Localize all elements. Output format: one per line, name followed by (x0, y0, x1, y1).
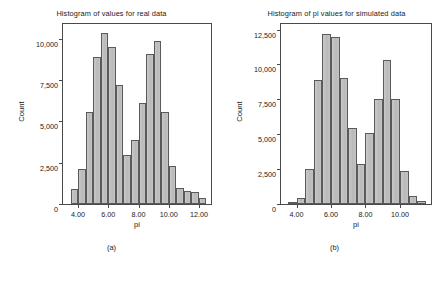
histogram-bar (288, 202, 297, 204)
histogram-bar (383, 60, 392, 204)
histogram-bar (86, 112, 94, 204)
panel-a-y-axis-label: Count (17, 82, 26, 142)
y-tick-label: 0 (54, 205, 63, 214)
y-tick-label: 10,000 (254, 65, 281, 74)
panel-b-title: Histogram of pi values for simulated dat… (227, 9, 446, 18)
x-tick-label: 4.00 (71, 210, 85, 219)
histogram-bar (400, 171, 409, 204)
histogram-bar (108, 47, 116, 204)
histogram-bar (191, 192, 199, 204)
histogram-bar (176, 188, 184, 204)
x-tick-mark (78, 204, 79, 208)
panel-a-plot-area: 02,5005,0007,50010,0004.006.008.0010.001… (63, 24, 211, 204)
histogram-bar (169, 166, 177, 204)
histogram-bar (131, 140, 139, 204)
panel-a-title: Histogram of values for real data (0, 9, 223, 18)
histogram-bar (331, 37, 340, 204)
panel-b-caption: (b) (223, 243, 446, 252)
y-tick-label: 0 (272, 205, 281, 214)
y-tick-label: 10,000 (36, 39, 63, 48)
y-tick-label: 5,000 (258, 135, 281, 144)
histogram-bar (101, 33, 109, 204)
x-tick-mark (331, 204, 332, 208)
histogram-bar (71, 189, 79, 204)
x-tick-mark (400, 204, 401, 208)
y-tick-label: 7,500 (40, 81, 63, 90)
y-tick-label: 7,500 (258, 100, 281, 109)
x-tick-label: 10.00 (391, 210, 409, 219)
x-tick-label: 8.00 (132, 210, 146, 219)
x-tick-mark (139, 204, 140, 208)
histogram-bar (139, 103, 147, 204)
histogram-bar (409, 196, 418, 204)
x-tick-label: 6.00 (101, 210, 115, 219)
histogram-bar (374, 99, 383, 204)
x-tick-label: 10.00 (160, 210, 178, 219)
histogram-bar (365, 133, 374, 204)
panel-a-plot-frame: 02,5005,0007,50010,0004.006.008.0010.001… (62, 23, 212, 205)
histogram-bar (199, 198, 207, 204)
y-tick-label: 2,500 (40, 163, 63, 172)
y-tick-label: 5,000 (40, 122, 63, 131)
x-tick-mark (297, 204, 298, 208)
panel-b-x-axis-label: pi (280, 220, 432, 229)
x-tick-mark (108, 204, 109, 208)
panel-a-x-axis-label: pi (62, 220, 212, 229)
panel-b-y-axis-label: Count (235, 82, 244, 142)
x-tick-label: 6.00 (324, 210, 338, 219)
panel-b-plot-frame: 02,5005,0007,50010,00012,5004.006.008.00… (280, 23, 432, 205)
histogram-bar (146, 54, 154, 204)
histogram-bar (322, 34, 331, 204)
y-tick-label: 12,500 (254, 30, 281, 39)
histogram-bar (357, 164, 366, 204)
panel-b-plot-area: 02,5005,0007,50010,00012,5004.006.008.00… (281, 24, 431, 204)
histogram-bar (305, 169, 314, 204)
x-tick-mark (169, 204, 170, 208)
histogram-bar (184, 191, 192, 204)
histogram-bar (161, 112, 169, 204)
histogram-bar (154, 41, 162, 204)
x-tick-mark (199, 204, 200, 208)
histogram-bar (340, 78, 349, 204)
histogram-bar (314, 80, 323, 204)
histogram-bar (116, 85, 124, 204)
histogram-bar (417, 201, 426, 204)
x-tick-mark (365, 204, 366, 208)
histogram-bar (348, 128, 357, 204)
figure-two-histograms: Histogram of values for real data 02,500… (0, 0, 446, 284)
panel-a: Histogram of values for real data 02,500… (0, 0, 223, 284)
panel-b: Histogram of pi values for simulated dat… (223, 0, 446, 284)
histogram-bar (391, 99, 400, 204)
histogram-bar (123, 155, 131, 204)
histogram-bar (93, 57, 101, 204)
y-tick-label: 2,500 (258, 170, 281, 179)
panel-a-caption: (a) (0, 243, 223, 252)
histogram-bar (78, 169, 86, 205)
histogram-bar (297, 198, 306, 204)
x-tick-label: 4.00 (290, 210, 304, 219)
x-tick-label: 12.00 (190, 210, 208, 219)
x-tick-label: 8.00 (358, 210, 372, 219)
